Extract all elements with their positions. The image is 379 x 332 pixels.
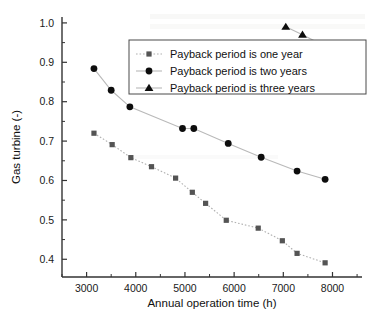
- data-point: [294, 168, 301, 175]
- x-axis-title: Annual operation time (h): [147, 297, 276, 309]
- data-point: [203, 201, 208, 206]
- scan-artifact: [150, 24, 365, 29]
- legend-label: Payback period is three years: [170, 82, 315, 94]
- y-tick-label: 0.6: [39, 174, 54, 186]
- chart-canvas: 0.40.50.60.70.80.91.0 300040005000600070…: [0, 0, 379, 332]
- data-point: [190, 190, 195, 195]
- data-point: [91, 65, 98, 72]
- x-tick-label: 7000: [272, 282, 296, 294]
- x-tick-label: 5000: [173, 282, 197, 294]
- x-tick-label: 4000: [124, 282, 148, 294]
- chart-legend: Payback period is one yearPayback period…: [129, 40, 366, 94]
- data-point: [91, 131, 96, 136]
- data-point: [322, 176, 329, 183]
- y-tick-label: 0.8: [39, 95, 54, 107]
- y-tick-label: 1.0: [39, 17, 54, 29]
- data-point: [294, 251, 299, 256]
- data-point: [128, 155, 133, 160]
- y-tick-label: 0.5: [39, 214, 54, 226]
- data-point: [280, 238, 285, 243]
- y-tick-label: 0.7: [39, 135, 54, 147]
- scan-artifact: [128, 155, 278, 159]
- chart-figure: 0.40.50.60.70.80.91.0 300040005000600070…: [0, 0, 379, 332]
- data-point: [149, 164, 154, 169]
- data-point: [323, 260, 328, 265]
- data-point: [225, 140, 232, 147]
- x-tick-label: 8000: [321, 282, 345, 294]
- y-tick-label: 0.9: [39, 56, 54, 68]
- data-point: [108, 87, 115, 94]
- data-point: [179, 125, 186, 132]
- scan-artifact: [150, 14, 365, 19]
- data-point: [224, 218, 229, 223]
- x-tick-label: 6000: [222, 282, 246, 294]
- data-point: [110, 142, 115, 147]
- legend-label: Payback period is two years: [170, 65, 307, 77]
- data-point: [126, 103, 133, 110]
- legend-label: Payback period is one year: [170, 48, 303, 60]
- legend-marker: [146, 68, 153, 75]
- data-point: [258, 154, 265, 161]
- y-tick-label: 0.4: [39, 253, 54, 265]
- data-point: [190, 125, 197, 132]
- data-point: [256, 226, 261, 231]
- x-tick-label: 3000: [75, 282, 99, 294]
- y-axis-title: Gas turbine (-): [10, 110, 22, 184]
- data-point: [173, 176, 178, 181]
- legend-marker: [146, 51, 151, 56]
